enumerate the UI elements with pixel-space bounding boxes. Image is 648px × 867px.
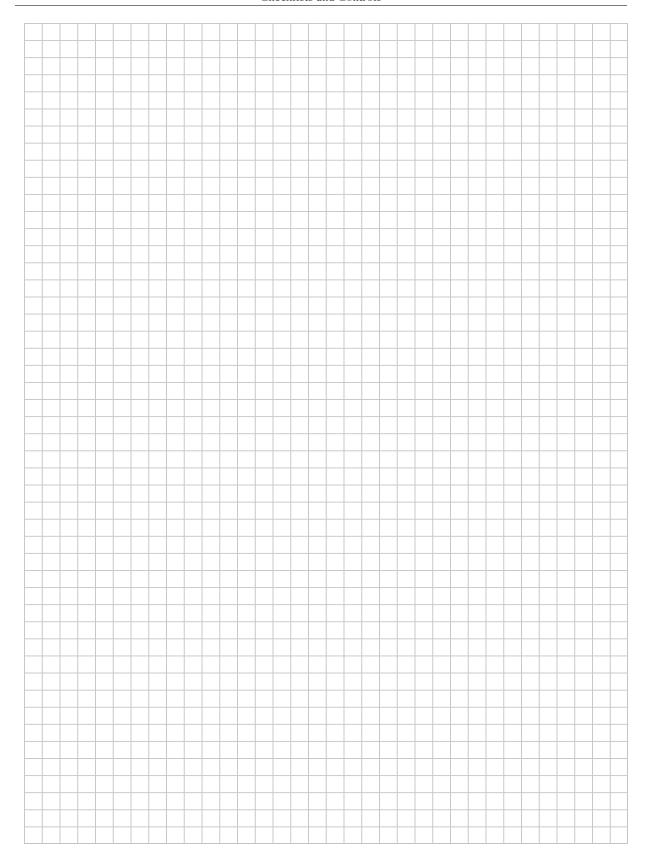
graph-paper-grid xyxy=(24,23,628,844)
running-header-title: Checklists and Controls xyxy=(15,0,627,3)
running-header: Checklists and Controls xyxy=(15,0,627,6)
